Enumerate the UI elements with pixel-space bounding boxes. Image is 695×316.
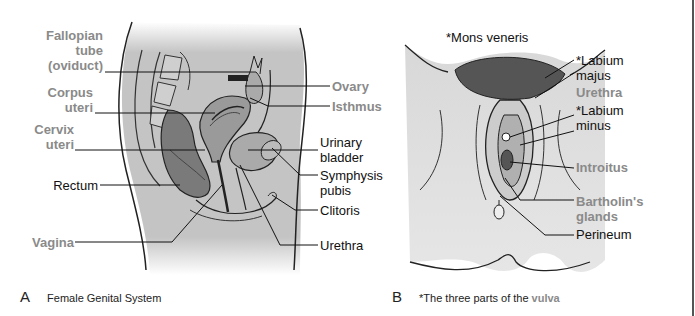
- label-urinary-line1: Urinary: [320, 135, 363, 150]
- label-labium-minus: *Labium minus: [576, 103, 624, 133]
- label-symphysis-pubis: Symphysis pubis: [320, 168, 383, 198]
- label-introitus: Introitus: [576, 160, 628, 175]
- label-cervix-line2: uteri: [8, 137, 74, 152]
- label-bartholins-glands: Bartholin's glands: [576, 194, 643, 224]
- label-labium-majus-line2: majus: [576, 68, 624, 83]
- label-symphysis-line2: pubis: [320, 183, 383, 198]
- caption-a-letter: A: [20, 288, 30, 305]
- label-labium-minus-line2: minus: [576, 118, 624, 133]
- label-rectum: Rectum: [8, 178, 98, 193]
- label-fallopian-line3: (oviduct): [8, 58, 103, 73]
- label-fallopian-line2: tube: [8, 43, 103, 58]
- label-fallopian-line1: Fallopian: [8, 28, 103, 43]
- caption-a-text: Female Genital System: [47, 292, 161, 304]
- label-mons-veneris: *Mons veneris: [446, 30, 528, 45]
- label-cervix-line1: Cervix: [8, 122, 74, 137]
- label-corpus-uteri: Corpus uteri: [8, 85, 93, 115]
- label-perineum: Perineum: [576, 227, 632, 242]
- caption-b: B *The three parts of the vulva: [392, 288, 560, 305]
- label-fallopian-tube: Fallopian tube (oviduct): [8, 28, 103, 73]
- caption-b-text: *The three parts of the: [419, 292, 532, 304]
- label-corpus-line2: uteri: [8, 100, 93, 115]
- label-urethra-b: Urethra: [576, 85, 622, 100]
- caption-b-letter: B: [392, 288, 402, 305]
- caption-b-vulva: vulva: [532, 292, 560, 304]
- label-isthmus: Isthmus: [332, 99, 382, 114]
- label-symphysis-line1: Symphysis: [320, 168, 383, 183]
- label-urinary-bladder: Urinary bladder: [320, 135, 363, 165]
- label-bartholin-line1: Bartholin's: [576, 194, 643, 209]
- label-cervix-uteri: Cervix uteri: [8, 122, 74, 152]
- label-urinary-line2: bladder: [320, 150, 363, 165]
- caption-a: A Female Genital System: [20, 288, 161, 305]
- label-labium-majus: *Labium majus: [576, 53, 624, 83]
- label-labium-majus-line1: *Labium: [576, 53, 624, 68]
- label-labium-minus-line1: *Labium: [576, 103, 624, 118]
- label-urethra-a: Urethra: [320, 238, 363, 253]
- label-clitoris: Clitoris: [320, 203, 360, 218]
- label-bartholin-line2: glands: [576, 209, 643, 224]
- label-vagina: Vagina: [8, 235, 74, 250]
- label-ovary: Ovary: [332, 79, 369, 94]
- label-corpus-line1: Corpus: [8, 85, 93, 100]
